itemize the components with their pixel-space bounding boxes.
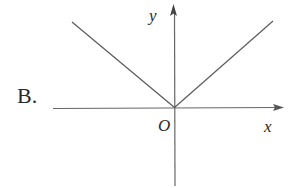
x-axis-label: x bbox=[263, 117, 272, 136]
y-axis bbox=[175, 12, 176, 186]
coordinate-graph: B. y O x bbox=[0, 0, 302, 188]
x-axis bbox=[53, 108, 280, 109]
graph-right-branch bbox=[175, 21, 274, 108]
origin-label: O bbox=[158, 116, 170, 135]
y-axis-label: y bbox=[147, 6, 157, 25]
graph-left-branch bbox=[72, 22, 175, 108]
option-label: B. bbox=[17, 83, 37, 108]
y-axis-arrow-icon bbox=[170, 4, 177, 16]
